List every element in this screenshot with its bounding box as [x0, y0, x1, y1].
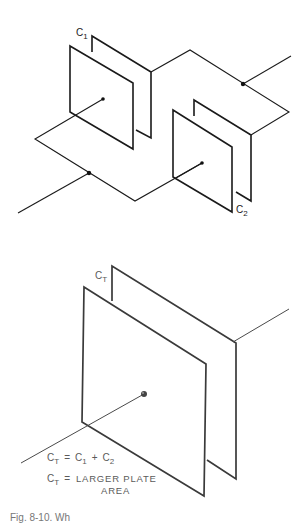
ct-plate-dot-highlight: [142, 392, 144, 394]
equation-ct-sum: CT=C1+C2: [47, 452, 115, 466]
c2-label: C2: [236, 204, 248, 218]
ct-label: CT: [95, 270, 107, 284]
c2-front-plate: [173, 110, 232, 212]
top-bus-wire: [151, 50, 289, 135]
equation-ct-area-line2: AREA: [101, 485, 130, 496]
ct-back-plate: [112, 266, 236, 479]
ct-plate-dot: [141, 391, 147, 397]
c2-back-plate: [194, 100, 251, 201]
c2-inner-wire: [176, 163, 202, 178]
top-right-lead: [243, 56, 291, 84]
bottom-diagram: CT CT=C1+C2 CT=LARGER PLATE AREA: [21, 266, 289, 496]
c1-front-plate: [70, 46, 133, 149]
figure-caption: Fig. 8-10. Wh: [10, 513, 70, 523]
bottom-junction-dot: [87, 171, 91, 175]
ct-right-lead: [233, 309, 289, 342]
top-diagram: C1 C2: [18, 27, 291, 218]
c1-label: C1: [76, 27, 88, 41]
c2-plate-dot: [200, 161, 204, 165]
c1-plate-dot: [101, 97, 105, 101]
top-junction-dot: [241, 82, 245, 86]
bottom-left-lead: [18, 173, 89, 213]
